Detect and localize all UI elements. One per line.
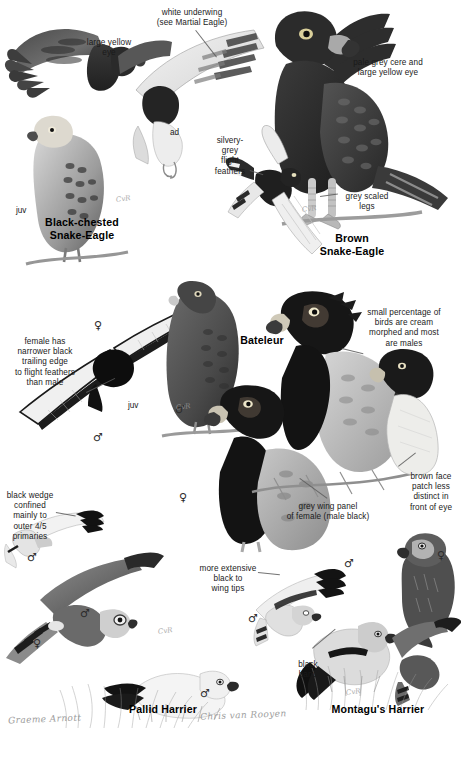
female-symbol-icon: ♀ — [437, 550, 445, 561]
callout-black-band: black band — [292, 660, 324, 680]
male-symbol-icon: ♂ — [344, 558, 354, 569]
callout-grey-scaled-legs: grey scaled legs — [336, 192, 398, 212]
callout-cream-morphed: small percentage of birds are cream morp… — [352, 308, 456, 349]
species-name: Black-chested Snake-Eagle — [22, 216, 142, 242]
callout-brown-face-patch: brown face patch less distinct in front … — [404, 472, 458, 513]
callout-female-narrower-black: female has narrower black trailing edge … — [4, 337, 86, 388]
male-symbol-icon: ♂ — [93, 432, 103, 443]
species-name: Brown Snake-Eagle — [292, 232, 412, 258]
species-name: Montagu's Harrier — [318, 703, 438, 716]
callout-pale-grey-cere: pale grey cere and large yellow eye — [338, 58, 438, 78]
callout-silvery-grey-flight-feathers: silvery- grey flight feathers — [208, 136, 252, 177]
age-label-juv: juv — [16, 206, 26, 215]
male-symbol-icon: ♂ — [27, 552, 37, 563]
age-label-ad: ad — [170, 128, 179, 137]
male-symbol-icon: ♂ — [248, 613, 258, 624]
female-symbol-icon: ♀ — [94, 320, 102, 331]
species-name: Bateleur — [202, 334, 322, 347]
callout-large-yellow-eye: large yellow eye — [78, 38, 140, 58]
bird-black-chested-snake-eagle-juvenile — [8, 110, 136, 270]
callout-more-extensive-black: more extensive black to wing tips — [192, 564, 264, 595]
bird-bateleur-cream-morph — [372, 348, 461, 478]
field-guide-plate: white underwing (see Martial Eagle)large… — [0, 0, 461, 758]
artist-signature-right: Chris van Rooyen — [200, 708, 287, 721]
female-symbol-icon: ♀ — [33, 638, 41, 649]
male-symbol-icon: ♂ — [80, 608, 90, 619]
callout-grey-wing-panel: grey wing panel of female (male black) — [272, 502, 384, 522]
age-label-juv: juv — [128, 401, 138, 410]
male-symbol-icon: ♂ — [200, 688, 210, 699]
callout-black-wedge: black wedge confined mainly to outer 4/5… — [4, 491, 56, 542]
female-symbol-icon: ♀ — [179, 492, 187, 503]
callout-white-underwing: white underwing (see Martial Eagle) — [146, 8, 238, 28]
